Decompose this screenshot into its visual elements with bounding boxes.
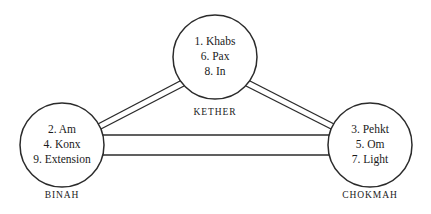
node-label-binah: 2. Am 4. Konx 9. Extension: [2, 122, 122, 167]
node-label-kether: 1. Khabs 6. Pax 8. In: [165, 34, 265, 79]
node-label-chokmah: 3. Pehkt 5. Om 7. Light: [310, 122, 430, 167]
node-line-3: 7. Light: [310, 152, 430, 167]
node-line-2: 6. Pax: [165, 49, 265, 64]
node-line-1: 1. Khabs: [165, 34, 265, 49]
edge-line-outer: [96, 81, 180, 125]
node-caption-chokmah: CHOKMAH: [320, 190, 420, 200]
node-line-1: 3. Pehkt: [310, 122, 430, 137]
edge-binah-chokmah: [103, 135, 329, 155]
node-caption-kether: KETHER: [165, 107, 265, 117]
node-line-2: 5. Om: [310, 137, 430, 152]
node-line-2: 4. Konx: [2, 137, 122, 152]
node-line-1: 2. Am: [2, 122, 122, 137]
edge-line-outer: [250, 81, 336, 125]
node-line-3: 8. In: [165, 64, 265, 79]
supernal-triangle-diagram: 1. Khabs 6. Pax 8. In 2. Am 4. Konx 9. E…: [0, 0, 431, 214]
node-caption-binah: BINAH: [12, 190, 112, 200]
node-line-3: 9. Extension: [2, 152, 122, 167]
